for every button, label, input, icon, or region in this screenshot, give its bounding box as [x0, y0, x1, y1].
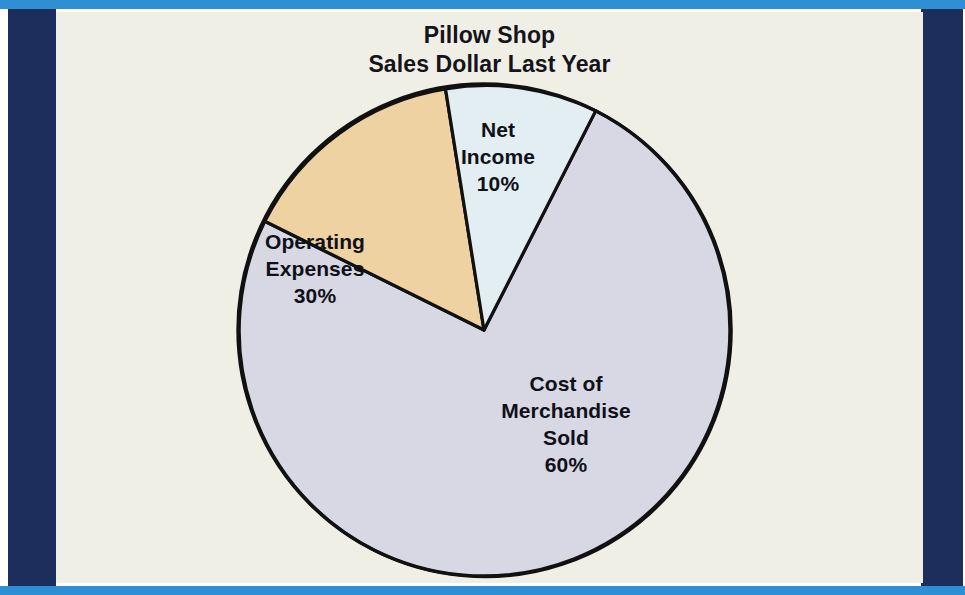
- right-navy-band: [921, 9, 963, 586]
- top-blue-rule: [0, 0, 965, 9]
- page-root: Pillow Shop Sales Dollar Last Year Net I…: [0, 0, 965, 595]
- pie-label-operating-expenses: Operating Expenses 30%: [220, 228, 410, 309]
- pie-label-net-income: Net Income 10%: [424, 116, 572, 197]
- pie-chart: Net Income 10% Operating Expenses 30% Co…: [56, 12, 923, 583]
- left-navy-band: [8, 9, 56, 586]
- pie-label-cost-of-merchandise: Cost of Merchandise Sold 60%: [456, 370, 676, 478]
- pie-chart-svg: [56, 12, 923, 583]
- figure-paper: Pillow Shop Sales Dollar Last Year Net I…: [56, 12, 923, 583]
- bottom-blue-rule: [0, 586, 965, 595]
